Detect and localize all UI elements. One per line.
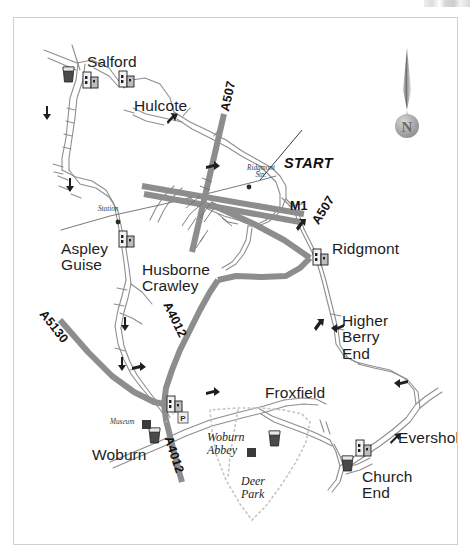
- minor-label-ridgmont-stn: Ridgmont Stn.: [247, 165, 275, 180]
- place-label-hulcote: Hulcote: [134, 98, 187, 114]
- pub-glass-icon: [63, 67, 74, 82]
- pub-glass-icon: [342, 456, 353, 471]
- place-label-woburn: Woburn: [92, 447, 147, 463]
- place-label-husborne-crawley: Husborne Crawley: [142, 262, 210, 295]
- compass-rose: N: [395, 48, 419, 138]
- place-label-ridgmont: Ridgmont: [332, 241, 399, 257]
- road-a507: [192, 114, 224, 252]
- minor-label-station: Station: [98, 206, 118, 213]
- station-dot: [116, 220, 121, 225]
- place-label-aspley-guise: Aspley Guise: [61, 241, 108, 274]
- svg-text:P: P: [180, 414, 186, 423]
- scan-artifact: [424, 0, 470, 7]
- church-icon: [119, 231, 134, 247]
- poi-icons: P: [63, 67, 371, 471]
- place-label-eversholt: Eversholt: [398, 430, 458, 446]
- minor-label-museum: Museum: [110, 419, 134, 426]
- church-icon: [119, 71, 134, 87]
- map-frame: N: [13, 17, 458, 545]
- feature-label-woburn-abbey: Woburn Abbey: [207, 431, 245, 457]
- ridgmont-station-dot: [247, 185, 252, 190]
- church-icon: [167, 396, 182, 412]
- compass-north-needle-icon: [403, 48, 411, 110]
- parking-icon: P: [178, 412, 188, 423]
- place-label-church-end: Church End: [362, 469, 413, 502]
- map-canvas: N: [14, 18, 457, 544]
- church-icon: [313, 249, 328, 265]
- place-label-salford: Salford: [87, 54, 137, 70]
- pub-glass-icon: [269, 431, 280, 446]
- pub-glass-icon: [149, 428, 160, 443]
- road-a4012-north: [218, 258, 310, 280]
- map-page: N: [0, 0, 472, 558]
- church-icon: [356, 440, 371, 456]
- direction-arrows: [43, 106, 408, 444]
- church-icon: [83, 72, 98, 88]
- road-label-m1: M1: [290, 200, 308, 213]
- place-label-higher-berry-end: Higher Berry End: [342, 313, 388, 362]
- start-label: START: [284, 156, 333, 171]
- site-square-icon: [247, 448, 256, 457]
- compass-north-letter: N: [402, 119, 413, 135]
- feature-label-deer-park: Deer Park: [241, 475, 265, 501]
- place-label-froxfield: Froxfield: [265, 385, 325, 401]
- museum-square-icon: [142, 420, 151, 429]
